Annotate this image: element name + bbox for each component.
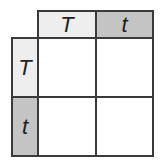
offspring-cell-1-2 <box>95 37 154 98</box>
offspring-cell-2-2 <box>95 96 154 157</box>
row-header-2: t <box>11 96 39 157</box>
offspring-cell-1-1 <box>37 37 97 98</box>
column-header-2: t <box>95 10 154 39</box>
offspring-cell-2-1 <box>37 96 97 157</box>
row-header-1: T <box>11 37 39 98</box>
column-header-1: T <box>37 10 97 39</box>
